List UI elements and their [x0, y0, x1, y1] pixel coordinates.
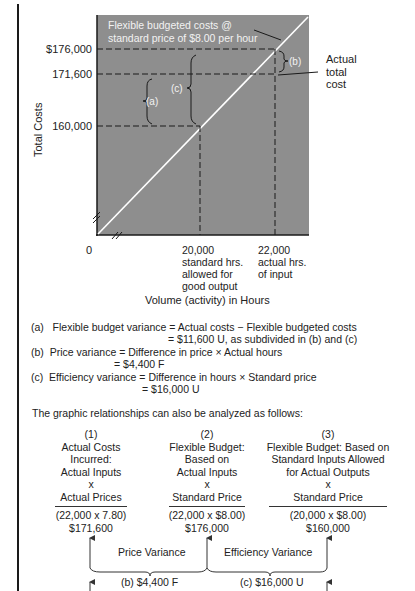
note-c-result: = $16,000 U	[142, 383, 200, 396]
x-tick-value: 20,000	[182, 244, 243, 256]
efficiency-variance-label: Efficiency Variance	[224, 546, 312, 558]
x-tick-line: allowed for	[182, 268, 243, 280]
column-calc: (22,000 x 7.80)	[48, 509, 134, 522]
column-line: Flexible Budget: Based on	[266, 441, 390, 454]
chart-title-line1: Flexible budgeted costs @	[108, 19, 257, 32]
column-line: Actual Prices	[48, 491, 134, 504]
note-label: (c)	[31, 371, 43, 383]
chart-title: Flexible budgeted costs @ standard price…	[108, 19, 257, 44]
y-tick-176000: $176,000	[2, 43, 92, 55]
column-line: Incurred:	[48, 453, 134, 466]
note-text: Price variance = Difference in price × A…	[50, 346, 283, 358]
column-rule	[169, 506, 245, 507]
note-a-result: = $11,600 U, as subdivided in (b) and (c…	[168, 333, 357, 346]
column-rule	[269, 506, 387, 507]
price-variance-value: (b) $4,400 F	[121, 576, 178, 588]
column-line: Standard Inputs Allowed	[266, 453, 390, 466]
label-line: Actual	[326, 53, 357, 66]
label-line: total	[326, 66, 357, 79]
brace-c-label: (c)	[171, 83, 183, 94]
efficiency-variance-brace-icon	[207, 568, 327, 576]
x-tick-line: actual hrs.	[258, 256, 306, 268]
column-line: Actual Costs	[48, 441, 134, 454]
chart-title-line2: standard price of $8.00 per hour	[108, 32, 257, 45]
column-line: x	[48, 478, 134, 491]
note-text: Flexible budget variance = Actual costs …	[53, 321, 357, 333]
column-calc: (20,000 x $8.00)	[266, 509, 390, 522]
x-tick-value: 22,000	[258, 244, 306, 256]
variance-brackets	[0, 530, 415, 591]
actual-total-cost-label: Actual total cost	[326, 53, 357, 91]
x-tick-22000: 22,000 actual hrs. of input	[258, 244, 306, 280]
column-number: (1)	[48, 428, 134, 441]
x-tick-line: of input	[258, 268, 306, 280]
column-line: Actual Inputs	[48, 466, 134, 479]
column-line: x	[266, 478, 390, 491]
column-number: (3)	[266, 428, 390, 441]
price-variance-label: Price Variance	[118, 546, 186, 558]
note-a: (a) Flexible budget variance = Actual co…	[31, 321, 357, 334]
x-tick-line: standard hrs.	[182, 256, 243, 268]
note-b: (b) Price variance = Difference in price…	[31, 346, 282, 359]
column-line: Based on	[164, 453, 250, 466]
x-tick-line: good output	[182, 280, 243, 292]
price-variance-brace-icon	[90, 568, 207, 576]
column-number: (2)	[164, 428, 250, 441]
column-actual-costs: (1) Actual Costs Incurred: Actual Inputs…	[48, 428, 134, 534]
note-b-result: = $4,400 F	[114, 358, 165, 371]
x-tick-20000: 20,000 standard hrs. allowed for good ou…	[182, 244, 243, 292]
origin-label: 0	[86, 244, 92, 256]
column-line: for Actual Outputs	[266, 466, 390, 479]
x-axis-label: Volume (activity) in Hours	[145, 294, 270, 306]
column-line: Standard Price	[266, 491, 390, 504]
column-line: Actual Inputs	[164, 466, 250, 479]
note-label: (b)	[31, 346, 44, 358]
column-flexible-budget-actual: (2) Flexible Budget: Based on Actual Inp…	[164, 428, 250, 534]
column-line: Standard Price	[164, 491, 250, 504]
column-calc: (22,000 x $8.00)	[164, 509, 250, 522]
intro-text: The graphic relationships can also be an…	[32, 407, 303, 420]
column-line: Flexible Budget:	[164, 441, 250, 454]
y-axis-label: Total Costs	[32, 103, 44, 157]
column-rule	[55, 506, 127, 507]
note-c: (c) Efficiency variance = Difference in …	[31, 371, 317, 384]
column-line: x	[164, 478, 250, 491]
note-text: Efficiency variance = Difference in hour…	[49, 371, 317, 383]
y-tick-160000: 160,000	[2, 120, 92, 132]
label-line: cost	[326, 78, 357, 91]
y-tick-171600: 171,600	[2, 68, 92, 80]
brace-b-label: (b)	[289, 56, 301, 67]
efficiency-variance-value: (c) $16,000 U	[240, 576, 304, 588]
column-flexible-budget-standard: (3) Flexible Budget: Based on Standard I…	[266, 428, 390, 534]
note-label: (a)	[31, 321, 44, 333]
brace-a-label: (a)	[146, 96, 158, 107]
